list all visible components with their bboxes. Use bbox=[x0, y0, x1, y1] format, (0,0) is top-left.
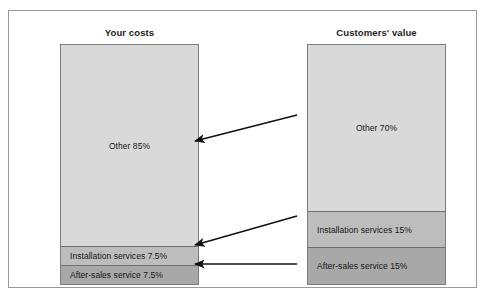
segment-label-customers-value-other: Other 70% bbox=[356, 123, 397, 133]
segment-label-customers-value-installation: Installation services 15% bbox=[308, 225, 412, 235]
segment-label-your-costs-after-sales: After-sales service 7.5% bbox=[61, 270, 163, 280]
segment-label-your-costs-installation: Installation services 7.5% bbox=[61, 251, 167, 261]
column-title-your-costs: Your costs bbox=[60, 27, 199, 38]
segment-customers-value-other: Other 70% bbox=[308, 45, 445, 211]
column-title-customers-value: Customers' value bbox=[307, 27, 446, 38]
segment-label-your-costs-other: Other 85% bbox=[109, 141, 150, 151]
stacked-bar-your-costs: Other 85% Installation services 7.5% Aft… bbox=[60, 44, 199, 285]
segment-label-customers-value-after-sales: After-sales service 15% bbox=[308, 261, 407, 271]
figure-frame: Your costs Customers' value Other 85% In… bbox=[8, 10, 477, 288]
segment-customers-value-installation: Installation services 15% bbox=[308, 211, 445, 248]
segment-your-costs-other: Other 85% bbox=[61, 45, 198, 246]
segment-your-costs-after-sales: After-sales service 7.5% bbox=[61, 265, 198, 284]
segment-customers-value-after-sales: After-sales service 15% bbox=[308, 247, 445, 284]
segment-your-costs-installation: Installation services 7.5% bbox=[61, 246, 198, 265]
stacked-bar-customers-value: Other 70% Installation services 15% Afte… bbox=[307, 44, 446, 285]
